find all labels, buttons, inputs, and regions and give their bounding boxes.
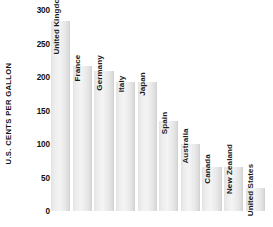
bar bbox=[138, 82, 157, 211]
bar-chart: U.S. CENTS PER GALLON 300250200150100500… bbox=[0, 0, 273, 227]
y-axis-tick: 100 bbox=[24, 140, 50, 149]
bar-column: Spain bbox=[159, 10, 178, 211]
plot-area: United KingdomFranceGermanyItalyJapanSpa… bbox=[51, 10, 265, 211]
bar bbox=[159, 121, 178, 211]
bar-column: Italy bbox=[116, 10, 135, 211]
bar bbox=[246, 188, 265, 211]
y-axis-tick: 300 bbox=[24, 6, 50, 15]
bar-column: Canada bbox=[202, 10, 221, 211]
bar bbox=[73, 66, 92, 211]
bar-column: United Kingdom bbox=[51, 10, 70, 211]
bar bbox=[116, 82, 135, 211]
bar bbox=[51, 21, 70, 211]
y-axis-tick: 250 bbox=[24, 39, 50, 48]
bar-series: United KingdomFranceGermanyItalyJapanSpa… bbox=[51, 10, 265, 211]
bar bbox=[181, 144, 200, 211]
bar bbox=[202, 167, 221, 211]
bar-column: Germany bbox=[94, 10, 113, 211]
y-axis-tick: 0 bbox=[24, 207, 50, 216]
bar-column: Japan bbox=[138, 10, 157, 211]
bar-column: United States bbox=[246, 10, 265, 211]
bar bbox=[94, 71, 113, 211]
y-axis-tick: 50 bbox=[24, 173, 50, 182]
bar bbox=[224, 167, 243, 211]
y-axis-tick: 150 bbox=[24, 106, 50, 115]
y-axis-tick: 200 bbox=[24, 73, 50, 82]
bar-column: New Zealand bbox=[224, 10, 243, 211]
y-axis-title: U.S. CENTS PER GALLON bbox=[0, 0, 16, 227]
bar-column: France bbox=[73, 10, 92, 211]
y-axis-tick-labels: 300250200150100500 bbox=[24, 10, 50, 211]
bar-column: Australia bbox=[181, 10, 200, 211]
